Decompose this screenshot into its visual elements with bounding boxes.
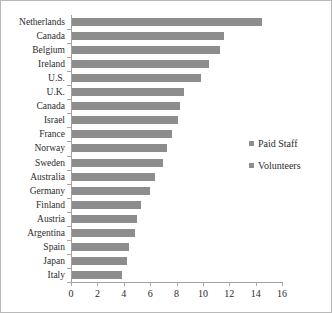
- bar: [72, 88, 184, 96]
- x-axis-tick: [177, 282, 178, 286]
- bar-row: [72, 226, 282, 240]
- bar-row: [72, 184, 282, 198]
- bar: [72, 32, 224, 40]
- bar-row: [72, 43, 282, 57]
- y-axis-tick-label: Germany: [1, 184, 65, 198]
- y-axis-tick-label: Israel: [1, 113, 65, 127]
- y-axis-tick-label: Sweden: [1, 156, 65, 170]
- bar: [72, 159, 163, 167]
- bar: [72, 130, 172, 138]
- y-axis-tick-label: U.S.: [1, 71, 65, 85]
- legend-swatch-icon: [249, 141, 254, 146]
- bar: [72, 102, 180, 110]
- y-axis-tick-label: Canada: [1, 29, 65, 43]
- x-axis-tick: [124, 282, 125, 286]
- legend-label: Paid Staff: [258, 138, 298, 149]
- x-axis-tick: [150, 282, 151, 286]
- y-axis-tick-label: Australia: [1, 170, 65, 184]
- y-axis-tick-label: Japan: [1, 254, 65, 268]
- x-axis-tick: [282, 282, 283, 286]
- bar-row: [72, 71, 282, 85]
- chart-legend: Paid StaffVolunteers: [249, 138, 301, 182]
- x-axis-tick: [203, 282, 204, 286]
- x-axis-tick-label: 16: [267, 288, 297, 299]
- bar: [72, 243, 129, 251]
- y-axis-tick-label: Argentina: [1, 226, 65, 240]
- legend-item[interactable]: Volunteers: [249, 160, 301, 171]
- bar-row: [72, 212, 282, 226]
- y-axis-tick-label: Norway: [1, 141, 65, 155]
- bar-row: [72, 268, 282, 282]
- y-axis-tick-label: Spain: [1, 240, 65, 254]
- bar: [72, 18, 262, 26]
- x-axis-tick: [256, 282, 257, 286]
- bar: [72, 60, 209, 68]
- bar-row: [72, 15, 282, 29]
- y-axis-tick-label: France: [1, 127, 65, 141]
- bar: [72, 257, 127, 265]
- y-axis-tick-label: Belgium: [1, 43, 65, 57]
- y-axis-tick-label: Italy: [1, 268, 65, 282]
- bar-row: [72, 29, 282, 43]
- bar: [72, 116, 178, 124]
- bar: [72, 144, 167, 152]
- bar-row: [72, 57, 282, 71]
- x-axis-tick: [71, 282, 72, 286]
- bar-row: [72, 113, 282, 127]
- bar: [72, 215, 137, 223]
- bar-row: [72, 254, 282, 268]
- legend-swatch-icon: [249, 163, 254, 168]
- bar-chart: NetherlandsCanadaBelgiumIrelandU.S.U.K.C…: [0, 0, 332, 313]
- y-axis-tick-label: Finland: [1, 198, 65, 212]
- x-axis-tick: [229, 282, 230, 286]
- bar: [72, 271, 122, 279]
- bar: [72, 187, 150, 195]
- y-axis-tick-label: Netherlands: [1, 15, 65, 29]
- bar: [72, 46, 220, 54]
- bar-row: [72, 240, 282, 254]
- x-axis-tick: [97, 282, 98, 286]
- bar: [72, 201, 141, 209]
- bar: [72, 173, 155, 181]
- y-axis-tick-label: Canada: [1, 99, 65, 113]
- y-axis-tick-label: U.K.: [1, 85, 65, 99]
- legend-label: Volunteers: [258, 160, 301, 171]
- y-axis-tick-label: Austria: [1, 212, 65, 226]
- bar: [72, 229, 135, 237]
- bar-row: [72, 198, 282, 212]
- y-axis-tick-label: Ireland: [1, 57, 65, 71]
- legend-item[interactable]: Paid Staff: [249, 138, 301, 149]
- bar-row: [72, 99, 282, 113]
- bar: [72, 74, 201, 82]
- bar-row: [72, 85, 282, 99]
